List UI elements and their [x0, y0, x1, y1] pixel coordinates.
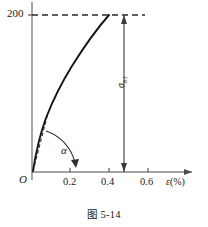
x-tick-label-2: 0.6: [140, 177, 153, 188]
sigma-subscript: b1: [121, 76, 129, 83]
x-axis-title: ε(%): [166, 177, 185, 187]
stress-strain-curve: [33, 15, 109, 171]
x-axis-arrowhead: [184, 169, 192, 175]
x-axis-unit: (%): [170, 176, 185, 187]
dimension-arrowhead-top: [121, 15, 127, 24]
angle-arc-arrowhead: [71, 159, 79, 168]
sigma-symbol: σ: [115, 83, 126, 88]
dimension-arrowhead-bottom: [121, 163, 127, 172]
origin-label: O: [19, 174, 27, 185]
y-axis-value-label: 200: [7, 8, 24, 19]
x-tick-label-1: 0.4: [101, 177, 114, 188]
dimension-label-sigma: σb1: [116, 76, 129, 88]
x-tick-label-0: 0.2: [63, 177, 76, 188]
angle-label-alpha: α: [61, 145, 67, 156]
figure-caption: 图 5-14: [0, 206, 208, 221]
figure-stress-strain: 200 O 0.2 0.4 0.6 ε(%) α σb1 图 5-14: [0, 0, 208, 227]
chart-canvas: [0, 0, 208, 227]
